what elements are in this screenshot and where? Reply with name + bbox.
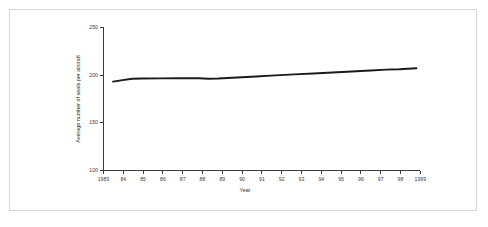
x-tick-label-92: 92 [279,176,285,182]
x-tick-label-85: 85 [140,176,146,182]
x-tick-label-89: 89 [219,176,225,182]
x-tick-label-1999: 1999 [415,176,427,182]
x-tick-label-86: 86 [160,176,166,182]
line-chart: 250 200 150 100 Average number of seats … [0,0,488,227]
y-tick-label-250: 250 [89,24,98,30]
x-tick-label-93: 93 [299,176,305,182]
x-tick-label-95: 95 [338,176,344,182]
data-series-line [113,68,416,81]
y-tick-label-200: 200 [89,72,98,78]
x-axis-title: Year [240,187,251,193]
y-tick-label-150: 150 [89,119,98,125]
x-tick-label-1983: 1983 [98,176,110,182]
chart-figure: 250 200 150 100 Average number of seats … [0,0,488,227]
x-tick-label-96: 96 [358,176,364,182]
y-axis-title: Average number of seats per aircraft [75,55,81,143]
y-tick-label-100: 100 [89,167,98,173]
x-tick-label-91: 91 [259,176,265,182]
y-tick-marks [100,28,104,171]
x-tick-label-90: 90 [239,176,245,182]
x-tick-label-84: 84 [120,176,126,182]
x-tick-label-98: 98 [398,176,404,182]
x-tick-label-88: 88 [200,176,206,182]
x-tick-label-87: 87 [180,176,186,182]
x-tick-label-94: 94 [318,176,324,182]
x-tick-marks [104,171,421,175]
x-tick-label-97: 97 [378,176,384,182]
